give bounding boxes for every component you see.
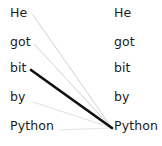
attention-diagram: He got bit by Python He got bit by Pytho… (0, 0, 162, 146)
source-token-got: got (10, 36, 31, 49)
target-token-got: got (114, 36, 135, 49)
target-token-column: He got bit by Python (114, 0, 162, 146)
source-token-bit: bit (10, 62, 27, 75)
source-token-by: by (10, 91, 26, 104)
target-token-he: He (114, 7, 131, 20)
target-token-python: Python (114, 120, 158, 133)
target-token-by: by (114, 91, 130, 104)
source-token-python: Python (10, 120, 54, 133)
source-token-column: He got bit by Python (10, 0, 70, 146)
source-token-he: He (10, 7, 27, 20)
target-token-bit: bit (114, 62, 131, 75)
